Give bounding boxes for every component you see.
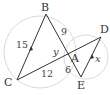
point-label-c: C	[4, 76, 12, 89]
point-label-a: A	[70, 52, 80, 65]
segment-cd	[17, 37, 101, 80]
length-label-ba: 9	[61, 26, 67, 37]
length-label-bc: 15	[16, 39, 28, 50]
length-label-ae: 6	[65, 64, 71, 75]
similar-triangles-diagram: B C A D E 15 9 12 6 y x	[0, 0, 110, 95]
length-label-y: y	[52, 46, 59, 57]
parallel-arrow-icon	[90, 54, 94, 59]
point-label-e: E	[77, 79, 85, 92]
length-label-ca: 12	[41, 68, 53, 79]
point-label-b: B	[41, 1, 49, 14]
parallel-arrow-icon	[29, 46, 33, 51]
point-label-d: D	[100, 23, 109, 36]
length-label-x: x	[95, 53, 101, 64]
